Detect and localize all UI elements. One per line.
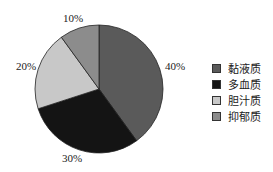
legend: 黏液质 多血质 胆汁质 抑郁质: [212, 60, 261, 124]
legend-label: 黏液质: [228, 60, 261, 76]
swatch-icon: [212, 64, 221, 73]
swatch-icon: [212, 112, 221, 121]
swatch-icon: [212, 96, 221, 105]
legend-label: 多血质: [228, 76, 261, 92]
legend-item: 胆汁质: [212, 92, 261, 108]
label-10: 10%: [63, 12, 83, 24]
label-40: 40%: [165, 60, 185, 72]
legend-label: 胆汁质: [228, 92, 261, 108]
legend-item: 抑郁质: [212, 108, 261, 124]
legend-item: 多血质: [212, 76, 261, 92]
legend-item: 黏液质: [212, 60, 261, 76]
legend-label: 抑郁质: [228, 108, 261, 124]
label-20: 20%: [16, 60, 36, 72]
swatch-icon: [212, 80, 221, 89]
label-30: 30%: [62, 152, 82, 164]
